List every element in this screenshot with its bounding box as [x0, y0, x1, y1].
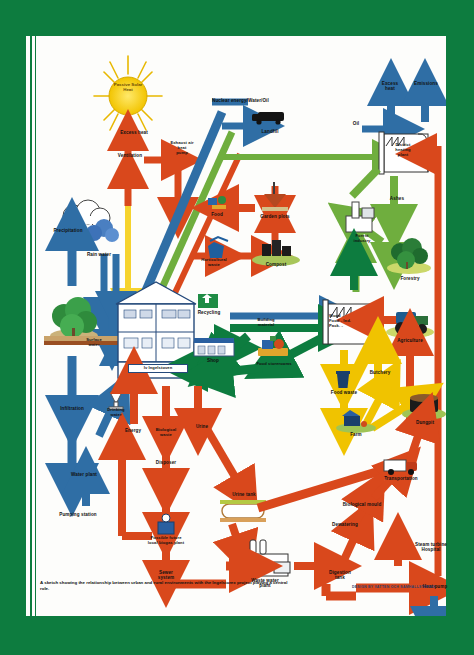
label-food-waste: Food waste	[322, 390, 366, 395]
forest-industry-icon	[346, 202, 374, 232]
flow-storerooms-to-shop	[224, 368, 262, 372]
agriculture-tractor-icon	[386, 312, 434, 338]
label-excess-heat-plant: Excess heat	[371, 81, 409, 92]
label-pumping-station: Pumping station	[48, 512, 108, 517]
label-shop: Shop	[198, 358, 228, 363]
label-house: Iv Ingelstoven	[128, 364, 188, 373]
transportation-truck-icon	[384, 460, 417, 475]
biogas-plant-icon	[158, 514, 174, 534]
label-district-heating-plant: District heating plant	[384, 143, 422, 157]
label-surface-water: Surface water	[76, 338, 112, 348]
label-rain-water: Rain water	[78, 252, 120, 257]
landfill-truck-icon	[252, 112, 284, 125]
label-dewatering: Dewatering	[322, 522, 368, 527]
label-urine-tank: Urine tank	[222, 492, 266, 497]
label-digestion-tank: Digestion tank	[320, 570, 360, 581]
precipitation-cloud-icon	[63, 200, 119, 242]
poster-root: Passive Solar Heat Excess heat Ventilati…	[0, 0, 474, 655]
label-infiltration: Infiltration	[50, 406, 94, 411]
label-drinking-water: Drinking water	[98, 408, 134, 418]
waste-water-plant-icon	[244, 540, 290, 576]
label-food-storerooms: Food storerooms	[244, 362, 304, 367]
food-waste-bin-icon	[336, 371, 350, 388]
flow-digestion-to-dewatering	[344, 534, 356, 560]
label-garden-plots: Garden plots	[252, 214, 298, 219]
shop-icon	[194, 338, 234, 356]
hospital-person-icon	[393, 520, 403, 548]
label-compost: Compost	[254, 262, 298, 267]
label-forestry: Forestry	[390, 276, 430, 281]
diagram-sheet: Passive Solar Heat Excess heat Ventilati…	[26, 36, 446, 616]
label-transportation: Transportation	[374, 476, 428, 481]
garden-plots-icon	[262, 182, 288, 211]
label-water-plant: Water plant	[60, 472, 108, 477]
label-ashes: Ashes	[382, 196, 412, 201]
design-credit: DESIGN BY VATTEN OCH SAMHALLSTEKNIK	[352, 585, 436, 589]
flow-diagram-canvas	[26, 36, 446, 616]
label-disposer: Disposer	[144, 460, 188, 465]
label-ventilation: Ventilation	[106, 153, 154, 158]
label-urine: Urine	[186, 424, 218, 429]
label-biological-mould: Biological mould	[332, 502, 392, 507]
label-recycling: Recycling	[188, 310, 230, 315]
label-exhaust-air-heat-pump: Exhaust air heat pump	[160, 141, 204, 155]
horticultural-waste-icon	[208, 237, 228, 258]
label-precipitation: Precipitation	[46, 228, 90, 233]
label-passive-solar-heat: Passive Solar Heat	[109, 82, 147, 92]
label-wood-food-ind-pack: Wood - Food - Ind. Pack. -	[329, 314, 369, 328]
food-storerooms-icon	[258, 336, 288, 356]
label-nuclear-energy-water-oil: Nuclear energy/Water/Oil	[212, 98, 336, 103]
flow-transport-to-dungpit	[408, 430, 420, 466]
label-biological-waste: Biological waste	[146, 428, 186, 438]
flow-plant-to-mill	[352, 169, 378, 196]
label-steam-turbine-hospital: Steam turbine Hospital	[406, 542, 456, 553]
diagram-caption: A sketch showing the relationship betwee…	[40, 580, 290, 592]
label-oil: Oil	[346, 121, 366, 126]
label-agriculture: Agriculture	[388, 338, 432, 343]
label-emissions: Emissions	[405, 81, 447, 86]
label-butchery: Butchery	[360, 370, 400, 375]
label-horticultural-waste: Horticultural waste	[192, 258, 236, 268]
flow-tank-down	[232, 524, 238, 542]
recycling-icon	[198, 294, 218, 308]
label-farm: Farm	[340, 432, 372, 437]
flow-urine-to-tank	[204, 424, 238, 482]
label-possible-future-local-biogas-plant: Possible future local biogas plant	[130, 536, 202, 546]
label-food: Food	[202, 212, 232, 217]
label-forest-industry: Forest industry	[342, 234, 382, 244]
label-dungpit: Dungpit	[406, 420, 444, 425]
label-landfill: Landfill	[250, 129, 290, 134]
label-building-material: Building material	[244, 318, 288, 328]
label-excess-heat-house: Excess heat	[110, 130, 158, 135]
flow-to-food-storerooms	[284, 336, 326, 358]
